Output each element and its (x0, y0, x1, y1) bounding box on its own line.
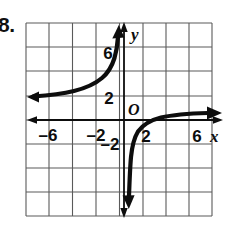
origin-label: O (128, 101, 140, 118)
x-tick-label-neg2: –2 (87, 126, 106, 145)
x-axis-right-arrowhead (213, 116, 223, 124)
x-tick-label-6: 6 (192, 127, 201, 146)
x-tick-label-2: 2 (141, 127, 150, 146)
x-tick-label-neg6: –6 (39, 126, 58, 145)
y-axis-label: y (129, 25, 139, 44)
x-axis-label: x (209, 127, 219, 146)
y-tick-label-6: 6 (103, 44, 112, 63)
graph-figure: 6 2 –2 –6 –2 2 6 y x O (0, 0, 241, 225)
y-tick-label-2: 2 (104, 89, 113, 108)
